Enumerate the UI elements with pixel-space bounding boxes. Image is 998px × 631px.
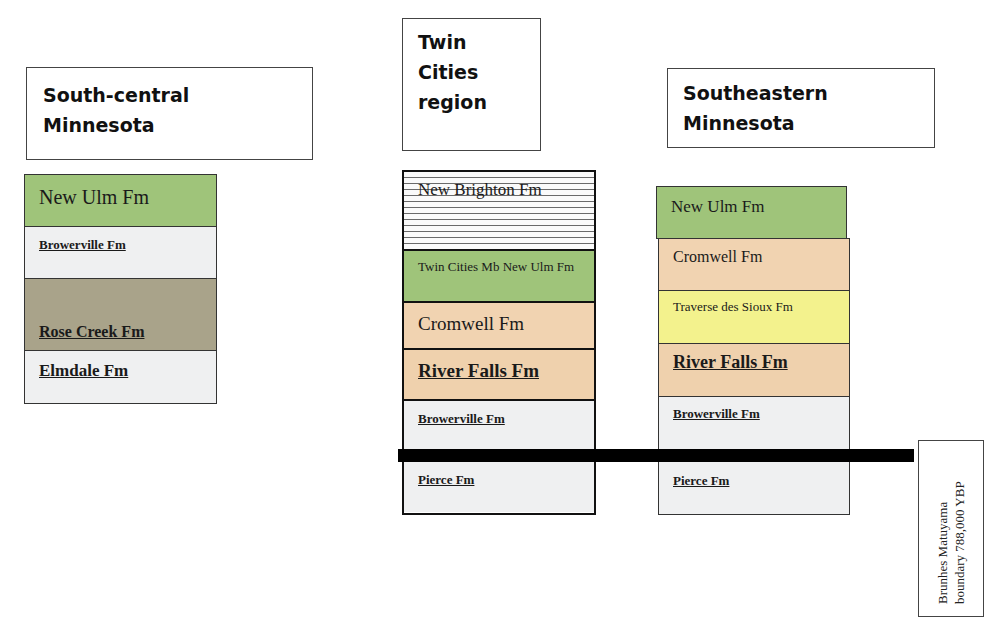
unit-new-brighton: New Brighton Fm bbox=[404, 172, 594, 251]
unit-browerville: Browerville Fm bbox=[24, 226, 217, 279]
column-southeastern: New Ulm Fm Cromwell Fm Traverse des Siou… bbox=[656, 186, 850, 516]
unit-elmdale: Elmdale Fm bbox=[24, 350, 217, 404]
unit-label: New Brighton Fm bbox=[418, 180, 542, 200]
unit-browerville: Browerville Fm bbox=[658, 396, 850, 451]
unit-rose-creek: Rose Creek Fm bbox=[24, 278, 217, 351]
unit-label: Browerville Fm bbox=[418, 411, 505, 427]
unit-label: Cromwell Fm bbox=[418, 313, 524, 335]
unit-label: New Ulm Fm bbox=[39, 186, 149, 209]
unit-label: Twin Cities Mb New Ulm Fm bbox=[418, 259, 586, 275]
unit-label: Browerville Fm bbox=[39, 237, 126, 253]
unit-cromwell: Cromwell Fm bbox=[658, 238, 850, 291]
unit-traverse-des-sioux: Traverse des Sioux Fm bbox=[658, 290, 850, 344]
header-south-central: South-central Minnesota bbox=[26, 67, 313, 160]
brunhes-matuyama-boundary-line bbox=[398, 449, 914, 462]
header-southeastern: Southeastern Minnesota bbox=[667, 68, 935, 148]
unit-label: New Ulm Fm bbox=[671, 197, 765, 217]
unit-river-falls: River Falls Fm bbox=[404, 350, 594, 401]
column-twin-cities: New Brighton Fm Twin Cities Mb New Ulm F… bbox=[402, 170, 596, 515]
unit-label: Browerville Fm bbox=[673, 406, 760, 422]
unit-label: River Falls Fm bbox=[673, 352, 788, 373]
header-southeastern-text: Southeastern Minnesota bbox=[683, 78, 828, 138]
unit-label: River Falls Fm bbox=[418, 360, 539, 382]
unit-label: Elmdale Fm bbox=[39, 361, 128, 381]
unit-new-ulm: New Ulm Fm bbox=[656, 186, 847, 239]
unit-new-ulm: New Ulm Fm bbox=[24, 174, 217, 227]
unit-pierce: Pierce Fm bbox=[404, 458, 594, 512]
unit-river-falls: River Falls Fm bbox=[658, 343, 850, 397]
unit-label: Traverse des Sioux Fm bbox=[673, 299, 793, 315]
header-twin-cities: Twin Cities region bbox=[402, 18, 541, 151]
unit-label: Cromwell Fm bbox=[673, 248, 762, 266]
boundary-label-box: Brunhes Matuyama boundary 788,000 YBP bbox=[918, 440, 984, 617]
header-south-central-text: South-central Minnesota bbox=[43, 80, 189, 140]
column-south-central: New Ulm Fm Browerville Fm Rose Creek Fm … bbox=[24, 174, 217, 404]
unit-twin-cities-mb: Twin Cities Mb New Ulm Fm bbox=[404, 251, 594, 303]
boundary-label-text: Brunhes Matuyama boundary 788,000 YBP bbox=[934, 454, 968, 604]
header-twin-cities-text: Twin Cities region bbox=[418, 27, 487, 117]
unit-label: Rose Creek Fm bbox=[39, 323, 144, 341]
unit-label: Pierce Fm bbox=[418, 472, 474, 488]
unit-label: Pierce Fm bbox=[673, 473, 729, 489]
unit-cromwell: Cromwell Fm bbox=[404, 303, 594, 350]
